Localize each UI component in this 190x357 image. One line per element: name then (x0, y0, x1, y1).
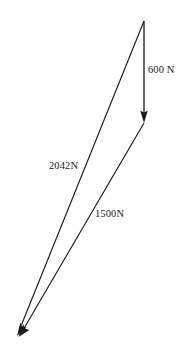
vector-label-1500n: 1500N (95, 209, 124, 220)
vector-2042n (17, 21, 144, 336)
vector-diagram-canvas (0, 0, 190, 357)
force-vector-diagram: 600 N 2042N 1500N (0, 0, 190, 357)
vector-2042n-shaft (22, 21, 145, 325)
vector-600n (140, 21, 148, 123)
vector-label-600n: 600 N (148, 65, 174, 76)
vector-label-2042n: 2042N (49, 161, 78, 172)
vector-1500n-shaft (25, 123, 145, 328)
vector-1500n (19, 123, 145, 337)
